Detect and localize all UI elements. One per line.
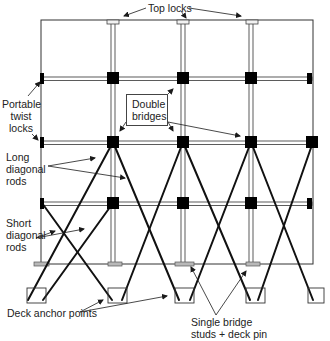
label-line: diagonal bbox=[6, 229, 46, 241]
diagonal-rods bbox=[28, 142, 313, 300]
leader-arrows bbox=[28, 8, 246, 315]
label-line: Double bbox=[132, 98, 162, 110]
label-line: Portable bbox=[2, 98, 40, 110]
lashing-diagram-svg bbox=[0, 0, 330, 341]
label-line: bridges bbox=[132, 110, 162, 122]
label-line: twist bbox=[2, 110, 40, 122]
label-line: rods bbox=[6, 241, 46, 253]
top-locks bbox=[107, 20, 258, 24]
label-long-diagonal-rods: Long diagonal rods bbox=[6, 151, 46, 187]
label-line: diagonal bbox=[6, 163, 46, 175]
label-double-bridges: Double bridges bbox=[126, 94, 168, 126]
label-line: Long bbox=[6, 151, 46, 163]
label-line: rods bbox=[6, 175, 46, 187]
label-short-diagonal-rods: Short diagonal rods bbox=[6, 217, 46, 253]
label-deck-anchor-points: Deck anchor points bbox=[7, 307, 97, 319]
label-line: Short bbox=[6, 217, 46, 229]
bridge-blocks bbox=[40, 72, 318, 209]
label-portable-twist-locks: Portable twist locks bbox=[2, 98, 40, 134]
container-lashing-diagram: Top locks Portable twist locks Double br… bbox=[0, 0, 330, 341]
label-line: Single bridge bbox=[191, 316, 267, 328]
label-line: studs + deck pin bbox=[191, 328, 267, 340]
label-top-locks: Top locks bbox=[148, 2, 192, 14]
label-single-bridge-studs: Single bridge studs + deck pin bbox=[191, 316, 267, 340]
label-line: locks bbox=[2, 122, 40, 134]
